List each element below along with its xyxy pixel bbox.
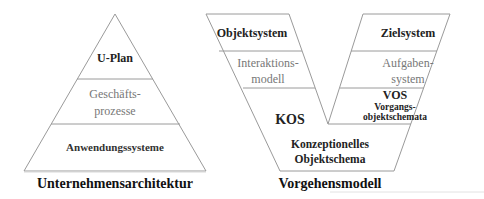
- vmodel-interaktionsmodell-line2: modell: [228, 73, 308, 87]
- vmodel-aufgabensystem-line2: system: [368, 73, 448, 87]
- pyramid-title: Unternehmensarchitektur: [30, 176, 200, 192]
- pyramid-layer-anwendungssysteme: Anwendungssysteme: [55, 141, 175, 154]
- vmodel-kos: KOS: [260, 112, 320, 128]
- vmodel-zielsystem: Zielsystem: [368, 27, 448, 41]
- pyramid-layer-uplan: U-Plan: [85, 52, 145, 66]
- vmodel-objektsystem: Objektsystem: [212, 27, 292, 41]
- vmodel-vos-line2: objektschemata: [350, 112, 440, 123]
- vmodel-kos-line1: Konzeptionelles: [280, 138, 380, 151]
- vmodel-vos: VOS: [355, 89, 435, 103]
- vmodel-interaktionsmodell-line1: Interaktions-: [228, 57, 308, 71]
- vmodel-aufgabensystem-line1: Aufgaben-: [368, 57, 448, 71]
- vmodel-kos-line2: Objektschema: [280, 153, 380, 166]
- pyramid-layer-geschaeftsprozesse-line2: prozesse: [75, 105, 155, 119]
- vmodel-title: Vorgehensmodell: [270, 176, 390, 192]
- pyramid-layer-geschaeftsprozesse-line1: Geschäfts-: [75, 88, 155, 102]
